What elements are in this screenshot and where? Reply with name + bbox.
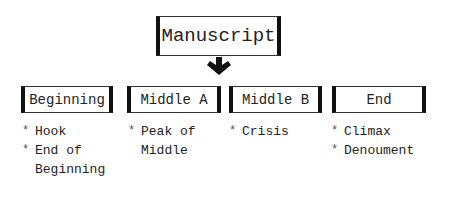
manuscript-label: Manuscript bbox=[161, 25, 275, 47]
section-beginning: Beginning bbox=[21, 86, 113, 113]
section-label: Beginning bbox=[29, 92, 105, 108]
section-middle-b: Middle B bbox=[229, 86, 322, 113]
list-item: Denoument bbox=[331, 141, 446, 160]
list-item: Climax bbox=[331, 122, 446, 141]
list-item: Hook bbox=[22, 122, 132, 141]
list-item: Crisis bbox=[229, 122, 324, 141]
beginning-items: Hook End of Beginning bbox=[22, 122, 132, 179]
arrow-down-icon bbox=[207, 57, 231, 75]
list-item: End of Beginning bbox=[22, 141, 132, 179]
manuscript-node: Manuscript bbox=[156, 16, 281, 56]
section-label: Middle B bbox=[242, 92, 309, 108]
section-middle-a: Middle A bbox=[127, 86, 221, 113]
section-label: Middle A bbox=[140, 92, 207, 108]
middle-b-items: Crisis bbox=[229, 122, 324, 141]
section-end: End bbox=[332, 86, 426, 113]
middle-a-items: Peak of Middle bbox=[128, 122, 223, 160]
end-items: Climax Denoument bbox=[331, 122, 446, 160]
list-item: Peak of Middle bbox=[128, 122, 223, 160]
section-label: End bbox=[366, 92, 391, 108]
